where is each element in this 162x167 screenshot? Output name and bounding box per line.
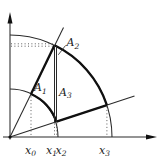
bold-shallow-ray-segment: [57, 105, 107, 122]
label-area-a3: A3: [58, 86, 72, 101]
tick-label-x0: x0: [25, 144, 36, 159]
diagram-canvas: A1 A2 A3 x0 x1 x2 x3: [0, 0, 162, 167]
geometry-diagram: A1 A2 A3 x0 x1 x2 x3: [0, 0, 162, 167]
label-area-a1: A1: [33, 81, 47, 96]
tick-label-x3: x3: [99, 144, 110, 159]
origin-dot: [8, 135, 11, 138]
bold-inner-arc-segment: [31, 94, 57, 122]
tick-label-x2: x2: [56, 144, 67, 159]
x-axis-arrow-icon: [146, 134, 157, 139]
label-area-a2: A2: [66, 36, 80, 51]
y-axis-arrow-icon: [8, 12, 13, 24]
